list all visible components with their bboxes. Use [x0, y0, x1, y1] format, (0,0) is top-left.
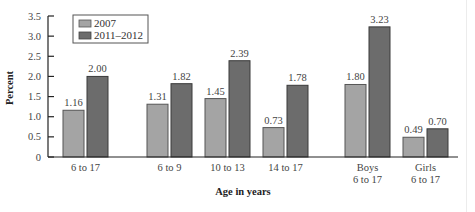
bar-value-label: 2.39 [230, 48, 248, 59]
bar-2011-2012 [171, 84, 192, 157]
bar-value-label: 1.82 [172, 71, 190, 82]
bar-value-label: 0.73 [264, 115, 282, 126]
bar-2007 [263, 128, 284, 157]
x-category-label: 6 to 17 [411, 174, 440, 185]
bar-2007 [345, 84, 366, 157]
bar-value-label: 1.45 [206, 86, 224, 97]
x-category-label: 14 to 17 [268, 162, 302, 173]
legend-swatch-2007 [79, 20, 91, 27]
y-tick-label: 3.0 [28, 31, 41, 42]
bar-value-label: 0.70 [428, 116, 446, 127]
legend-label-2011-2012: 2011–2012 [94, 29, 143, 41]
legend-swatch-2011-2012 [79, 32, 91, 39]
y-tick-label: 3.5 [28, 11, 41, 22]
x-category-label: Girls [415, 162, 436, 173]
bar-value-label: 1.78 [288, 72, 306, 83]
bar-2011-2012 [287, 85, 308, 157]
bar-2007 [63, 110, 84, 157]
bar-value-label: 0.49 [404, 124, 422, 135]
bar-value-label: 2.00 [88, 63, 106, 74]
bar-chart: 00.51.01.52.02.53.03.5 1.161.311.450.731… [0, 0, 475, 212]
y-tick-label: 1.0 [28, 111, 41, 122]
bar-2011-2012 [369, 27, 390, 157]
bar-2007 [403, 137, 424, 157]
x-axis: 6 to 176 to 910 to 1314 to 17Boys6 to 17… [48, 157, 458, 185]
y-tick-label: 0 [36, 152, 41, 163]
bar-2007 [147, 104, 168, 157]
bar-value-label: 3.23 [370, 14, 388, 25]
bar-2011-2012 [229, 61, 250, 157]
x-category-label: 6 to 17 [353, 174, 382, 185]
bar-value-label: 1.31 [148, 91, 166, 102]
bar-2011-2012 [87, 76, 108, 157]
y-axis: 00.51.01.52.02.53.03.5 [28, 11, 54, 163]
y-tick-label: 2.5 [28, 51, 41, 62]
y-tick-label: 2.0 [28, 71, 41, 82]
y-axis-title: Percent [4, 70, 15, 105]
bar-2007 [205, 99, 226, 157]
x-category-label: 6 to 17 [71, 162, 100, 173]
bar-value-label: 1.16 [64, 97, 82, 108]
x-axis-title: Age in years [215, 186, 270, 197]
legend: 2007 2011–2012 [73, 15, 148, 43]
bar-value-label: 1.80 [346, 71, 364, 82]
x-category-label: 6 to 9 [158, 162, 182, 173]
bar-2011-2012 [427, 129, 448, 157]
x-category-label: Boys [357, 162, 379, 173]
y-tick-label: 1.5 [28, 91, 41, 102]
legend-label-2007: 2007 [94, 17, 117, 29]
x-category-label: 10 to 13 [210, 162, 244, 173]
y-tick-label: 0.5 [28, 131, 41, 142]
